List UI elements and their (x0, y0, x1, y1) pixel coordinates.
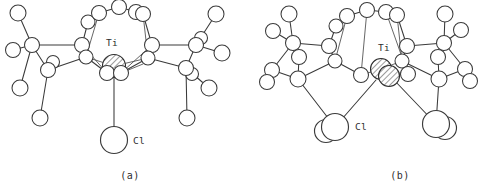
caption-panel-b: (b) (370, 170, 430, 181)
caption-panel-a: (a) (100, 170, 160, 181)
ti-label: Ti (378, 42, 390, 53)
atom-circle (114, 66, 129, 81)
titanium-atom (379, 66, 400, 87)
atom-circle (141, 51, 155, 65)
chlorine-atom (423, 111, 450, 138)
ti-label: Ti (106, 37, 118, 48)
atom-circle (266, 24, 281, 39)
chlorine-atom (322, 114, 349, 141)
atom-circle (354, 68, 369, 83)
atom-circle (100, 66, 115, 81)
atom-circle (437, 6, 453, 22)
atom-circle (189, 38, 204, 53)
cl-label: Cl (355, 121, 367, 132)
atom-circle (340, 9, 355, 24)
atom-circle (360, 3, 375, 18)
atom-circle (395, 54, 409, 68)
atom-circle (136, 7, 151, 22)
atom-circle (92, 6, 107, 21)
atom-circle (41, 63, 56, 78)
atom-circle (260, 75, 275, 90)
atom-circle (454, 23, 469, 38)
atom-circle (201, 80, 217, 96)
molecular-structure-figure: Ti Cl (0, 0, 496, 193)
atom-circle (32, 110, 48, 126)
atom-circle (437, 36, 452, 51)
atom-circle (145, 38, 160, 53)
bonds-panel-b (267, 10, 470, 127)
cl-label: Cl (133, 135, 145, 146)
atom-circle (12, 80, 28, 96)
atom-circle (179, 61, 194, 76)
atom-circle (322, 39, 337, 54)
atom-circle (208, 6, 224, 22)
atom-circle (179, 110, 195, 126)
structure-panel-b: Ti Cl (248, 0, 496, 193)
atom-circle (290, 71, 306, 87)
atom-circle (10, 5, 26, 21)
atom-circle (25, 38, 40, 53)
atom-circle (463, 74, 478, 89)
atom-circle (328, 54, 342, 68)
atom-circle (6, 43, 21, 58)
atom-circle (400, 39, 415, 54)
atoms-panel-a (6, 0, 231, 154)
atom-circle (390, 8, 405, 23)
structure-panel-a: Ti Cl (0, 0, 248, 193)
atom-circle (281, 6, 297, 22)
atom-circle (286, 36, 301, 51)
atom-circle (79, 50, 93, 64)
atom-circle (401, 67, 416, 82)
atom-circle (431, 71, 447, 87)
atom-circle (112, 0, 127, 15)
atom-circle (214, 45, 230, 61)
atom-circle (292, 50, 307, 65)
atom-circle (431, 50, 446, 65)
chlorine-atom (101, 127, 128, 154)
